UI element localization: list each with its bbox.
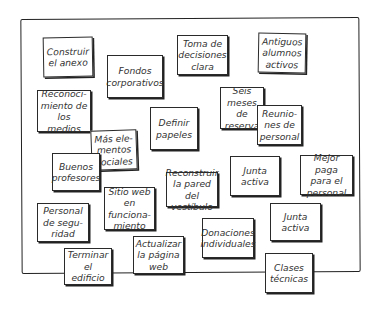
- note-toma-decisiones: Toma de decisiones clara: [177, 35, 228, 75]
- note-reconstruir-pared: Reconstruir la pared del vestíbulo: [166, 172, 218, 207]
- note-sitio-web: Sitio web en funciona- miento: [104, 187, 155, 230]
- note-junta-activa-2: Junta activa: [270, 203, 321, 241]
- note-terminar-edificio: Terminar el edificio: [64, 248, 112, 285]
- note-personal-seguridad: Personal de segu- ridad: [37, 203, 89, 242]
- note-reconocimiento-medios: Reconoci- miento de los medios: [37, 90, 91, 132]
- note-junta-activa-1: Junta activa: [230, 156, 280, 196]
- note-actualizar-pagina: Actualizar la página web: [133, 236, 184, 274]
- note-construir-anexo: Construir el anexo: [43, 37, 94, 78]
- note-fondos-corporativos: Fondos corporativos: [107, 55, 163, 98]
- note-mejor-paga: Mejor paga para el personal: [300, 155, 353, 195]
- note-clases-tecnicas: Clases técnicas: [265, 253, 313, 293]
- note-buenos-profesores: Buenos profesores: [52, 153, 100, 191]
- note-definir-papeles: Definir papeles: [150, 107, 198, 150]
- note-donaciones-individuales: Donaciones individuales: [202, 218, 254, 258]
- note-antiguos-alumnos: Antiguos alumnos activos: [258, 33, 307, 74]
- note-reuniones-personal: Reunio- nes de personal: [257, 105, 302, 145]
